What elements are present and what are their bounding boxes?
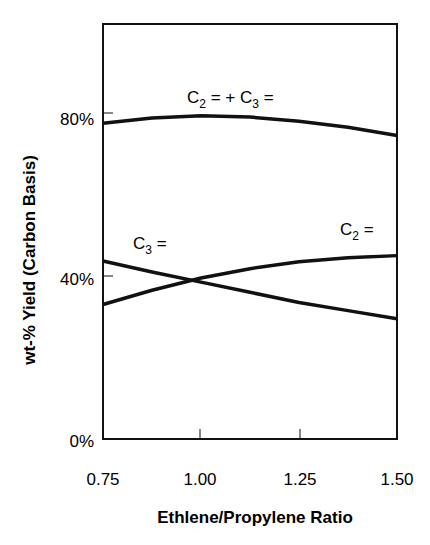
- label-c3: C3 =: [133, 234, 167, 257]
- y-tick-label-40: 40%: [60, 270, 94, 289]
- y-axis-title: wt-% Yield (Carbon Basis): [20, 155, 39, 366]
- label-combined: C2 = + C3 =: [187, 88, 274, 111]
- series-combined: [103, 116, 397, 136]
- x-axis-title: Ethlene/Propylene Ratio: [157, 508, 353, 527]
- chart: 80% 40% 0% 0.75 1.00 1.25 1.50 Ethlene/P…: [0, 0, 430, 545]
- y-tick-label-80: 80%: [60, 110, 94, 129]
- y-tick-label-0: 0%: [69, 432, 94, 451]
- x-tick-label-075: 0.75: [86, 470, 119, 489]
- label-c2: C2 =: [340, 220, 374, 243]
- x-tick-label-125: 1.25: [283, 470, 316, 489]
- x-tick-label-100: 1.00: [183, 470, 216, 489]
- series-lines: [103, 116, 397, 319]
- x-tick-label-150: 1.50: [380, 470, 413, 489]
- series-c2: [103, 256, 397, 305]
